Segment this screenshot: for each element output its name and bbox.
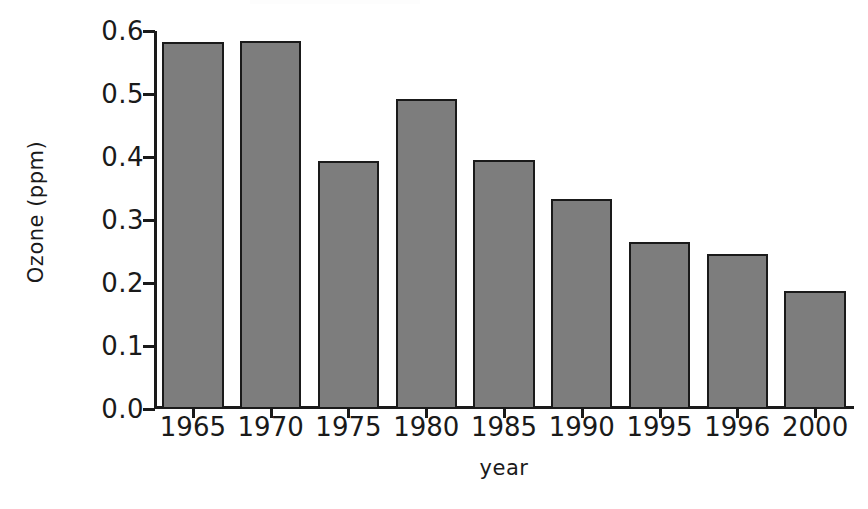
bar	[240, 41, 301, 409]
y-tick-mark	[143, 282, 155, 285]
plot-area	[154, 31, 854, 409]
y-tick-label: 0.0	[72, 396, 144, 422]
y-axis-tick-labels: 0.60.50.40.30.20.10.0	[60, 0, 144, 509]
y-tick-label: 0.4	[72, 144, 144, 170]
x-tick-label: 1970	[232, 414, 310, 440]
bar	[396, 99, 457, 409]
y-tick-label: 0.2	[72, 270, 144, 296]
bar-chart-figure: Ozone (ppm) 0.60.50.40.30.20.10.0 196519…	[0, 0, 868, 509]
y-tick-label: 0.3	[72, 207, 144, 233]
y-tick-mark	[143, 219, 155, 222]
bar	[784, 291, 845, 409]
y-tick-label: 0.1	[72, 333, 144, 359]
x-tick-label: 1990	[543, 414, 621, 440]
y-tick-mark	[143, 408, 155, 411]
bar	[629, 242, 690, 409]
y-tick-label: 0.6	[72, 18, 144, 44]
clipped-title-artifact	[250, 0, 420, 4]
x-tick-label: 1965	[154, 414, 232, 440]
x-tick-label: 1980	[387, 414, 465, 440]
x-tick-label: 1985	[465, 414, 543, 440]
x-tick-label: 1975	[310, 414, 388, 440]
x-axis-tick-labels: 196519701975198019851990199519962000	[154, 414, 854, 454]
bar	[473, 160, 534, 409]
y-axis-title: Ozone (ppm)	[24, 82, 48, 342]
x-tick-label: 1996	[698, 414, 776, 440]
bar	[162, 42, 223, 409]
y-tick-mark	[143, 30, 155, 33]
bar	[551, 199, 612, 409]
y-tick-mark	[143, 93, 155, 96]
x-axis-title: year	[154, 456, 854, 480]
bar	[707, 254, 768, 409]
x-tick-label: 2000	[776, 414, 854, 440]
y-tick-label: 0.5	[72, 81, 144, 107]
x-tick-label: 1995	[621, 414, 699, 440]
bar	[318, 161, 379, 409]
y-tick-mark	[143, 345, 155, 348]
y-tick-mark	[143, 156, 155, 159]
